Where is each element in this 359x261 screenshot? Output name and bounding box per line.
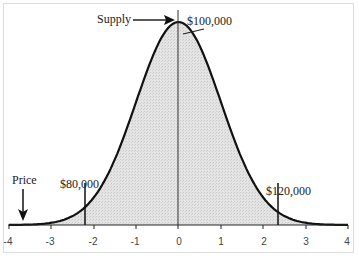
tick-label: 3 <box>303 236 309 247</box>
tick-label: 4 <box>344 236 350 247</box>
x-tick-labels: -4 -3 -2 -1 0 1 2 3 4 <box>4 236 351 247</box>
tick-label: 0 <box>176 236 182 247</box>
supply-label: Supply <box>97 12 131 26</box>
mid-label: $100,000 <box>187 14 232 28</box>
high-label: $120,000 <box>266 184 311 198</box>
tick-label: -1 <box>131 236 140 247</box>
tick-label: -2 <box>89 236 98 247</box>
tick-label: 1 <box>218 236 224 247</box>
tick-label: 2 <box>261 236 267 247</box>
price-label: Price <box>12 173 37 187</box>
tick-label: -3 <box>46 236 55 247</box>
x-axis-ticks <box>9 225 348 229</box>
price-arrow-icon <box>18 189 28 221</box>
tick-label: -4 <box>4 236 13 247</box>
low-label: $80,000 <box>60 177 99 191</box>
normal-distribution-chart: -4 -3 -2 -1 0 1 2 3 4 Supply $100,000 Pr… <box>0 0 359 261</box>
supply-arrow-icon <box>133 15 175 25</box>
